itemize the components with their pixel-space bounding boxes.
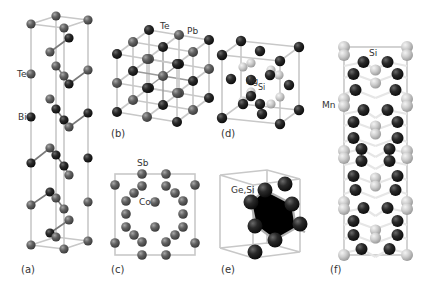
panel-label-c: (c) [111, 264, 124, 275]
panel-c-cosb3: Sb Co (c) [110, 158, 200, 275]
panel-label-f: (f) [330, 264, 341, 275]
atom-label-si: Si [258, 83, 265, 92]
atom-label-si: Si [369, 48, 377, 58]
atoms [110, 169, 200, 260]
atom-label-te: Te [159, 21, 170, 31]
bonds [251, 190, 305, 240]
atom-label-mg: Mg [246, 77, 258, 86]
panel-b-pbte: Te Pb (b) [111, 21, 214, 139]
panel-a-bi2te3: Te Bi (a) [16, 11, 93, 275]
panel-label-d: (d) [221, 128, 235, 139]
atom-label-mn: Mn [322, 100, 335, 110]
atom-label-ge-si: Ge,Si [231, 185, 255, 195]
atoms [338, 41, 413, 261]
atom-label-bi: Bi [18, 112, 27, 122]
panel-e-gesi: Ge,Si (e) [220, 170, 308, 275]
rock-salt-lattice [112, 25, 214, 127]
atoms [26, 11, 92, 253]
panel-label-a: (a) [21, 264, 35, 275]
atom-label-sb: Sb [137, 158, 149, 168]
crystal-structures-figure: Te Bi (a) Te Pb (b) [0, 0, 433, 288]
unit-cell-edges [31, 16, 88, 249]
panel-f-higher-manganese-silicide: Si Mn (f) [322, 41, 413, 275]
panel-d-mg2si: Mg Si (d) [217, 36, 304, 139]
atom-label-pb: Pb [187, 26, 198, 36]
panel-label-b: (b) [111, 128, 125, 139]
panel-label-e: (e) [221, 264, 235, 275]
atom-label-te: Te [16, 69, 27, 79]
atom-label-co: Co [139, 197, 151, 207]
